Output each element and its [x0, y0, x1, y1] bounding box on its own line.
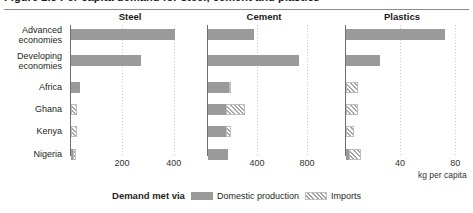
- segment-domestic-production: [346, 29, 445, 40]
- bar-plastics-5: [346, 149, 361, 160]
- bar-steel-3: [71, 104, 77, 115]
- segment-domestic-production: [208, 149, 228, 160]
- segment-imports: [349, 149, 361, 160]
- category-label-4: Kenya: [36, 126, 62, 136]
- x-tick-label-80: 80: [450, 158, 460, 168]
- bar-cement-1: [208, 55, 299, 66]
- segment-domestic-production: [71, 55, 141, 66]
- segment-imports: [346, 126, 354, 137]
- bar-plastics-3: [346, 104, 358, 115]
- panel-cement: 400800: [207, 25, 332, 156]
- segment-domestic-production: [208, 55, 299, 66]
- bar-plastics-1: [346, 55, 380, 66]
- bar-cement-4: [208, 126, 231, 137]
- bar-plastics-0: [346, 29, 445, 40]
- x-tick-label-40: 40: [395, 158, 405, 168]
- bar-steel-5: [71, 149, 76, 160]
- bar-cement-5: [208, 149, 228, 160]
- segment-imports: [346, 104, 358, 115]
- x-tick-label-400: 400: [166, 158, 181, 168]
- category-label-3: Ghana: [35, 104, 62, 114]
- segment-imports: [71, 126, 77, 137]
- bar-plastics-4: [346, 126, 354, 137]
- segment-domestic-production: [208, 126, 226, 137]
- legend-label-domestic-production: Domestic production: [217, 191, 299, 201]
- segment-imports: [229, 82, 231, 93]
- x-tick-label-800: 800: [299, 158, 314, 168]
- bar-cement-0: [208, 29, 254, 40]
- segment-imports: [71, 104, 77, 115]
- segment-domestic-production: [71, 29, 175, 40]
- segment-domestic-production: [346, 55, 380, 66]
- legend-item-domestic-production: Domestic production: [191, 191, 299, 201]
- bar-cement-3: [208, 104, 245, 115]
- figure-title: Figure 2.3 Per capita demand for steel, …: [4, 0, 320, 3]
- category-label-2: Africa: [39, 82, 62, 92]
- legend-label-imports: Imports: [331, 191, 361, 201]
- panel-title-plastics: Plastics: [338, 11, 466, 22]
- x-axis-unit-label: kg per capita: [418, 170, 467, 180]
- x-tick-label-400: 400: [249, 158, 264, 168]
- legend-title: Demand met via: [112, 190, 185, 201]
- segment-domestic-production: [208, 82, 229, 93]
- panel-plastics: 4080: [345, 25, 469, 156]
- gridline-400: [174, 25, 175, 156]
- panel-title-steel: Steel: [66, 11, 194, 22]
- gridline-40: [400, 25, 401, 156]
- segment-imports: [226, 104, 245, 115]
- segment-imports: [346, 82, 358, 93]
- category-label-5: Nigeria: [33, 149, 62, 159]
- segment-domestic-production: [208, 104, 226, 115]
- panel-steel: 200400: [70, 25, 192, 156]
- bar-steel-4: [71, 126, 77, 137]
- legend: Demand met via Domestic production Impor…: [0, 190, 473, 201]
- gridline-400: [257, 25, 258, 156]
- domestic-production-swatch-icon: [191, 192, 213, 200]
- bar-steel-2: [71, 82, 80, 93]
- legend-item-imports: Imports: [305, 191, 361, 201]
- segment-domestic-production: [71, 82, 80, 93]
- segment-imports: [226, 126, 232, 137]
- panel-title-cement: Cement: [200, 11, 328, 22]
- gridline-800: [307, 25, 308, 156]
- x-tick-label-200: 200: [114, 158, 129, 168]
- category-label-0: Advanced economies: [18, 25, 62, 45]
- segment-imports: [73, 149, 77, 160]
- segment-domestic-production: [208, 29, 254, 40]
- category-label-1: Developing economies: [17, 51, 62, 71]
- gridline-80: [455, 25, 456, 156]
- title-divider: [4, 9, 469, 10]
- bar-steel-0: [71, 29, 175, 40]
- figure-container: Figure 2.3 Per capita demand for steel, …: [0, 0, 473, 213]
- imports-swatch-icon: [305, 192, 327, 200]
- bar-steel-1: [71, 55, 141, 66]
- gridline-200: [122, 25, 123, 156]
- bar-plastics-2: [346, 82, 358, 93]
- bar-cement-2: [208, 82, 231, 93]
